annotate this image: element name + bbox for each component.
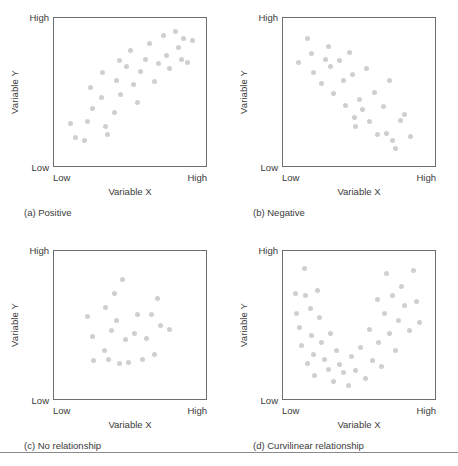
scatter-point — [399, 284, 404, 289]
scatter-point — [176, 45, 181, 50]
panel-d-caption: (d) Curvilinear relationship — [253, 440, 364, 451]
panel-d-curvilinear: High Low Variable Y Low High Variable X … — [229, 233, 458, 466]
scatter-point — [349, 354, 354, 359]
scatter-point — [370, 358, 375, 363]
scatter-point — [323, 57, 328, 62]
scatter-point — [411, 268, 416, 273]
scatter-point — [376, 340, 381, 345]
panel-c-no-relationship: High Low Variable Y Low High Variable X … — [0, 233, 229, 466]
scatter-point — [140, 357, 145, 362]
scatter-point — [390, 138, 395, 143]
scatter-point — [112, 110, 117, 115]
scatter-point — [103, 124, 108, 129]
scatter-point — [68, 121, 73, 126]
scatter-point — [311, 70, 316, 75]
scatter-point — [367, 119, 372, 124]
scatter-point — [132, 331, 137, 336]
plot-area-b — [282, 17, 436, 167]
plot-area-d — [282, 250, 436, 400]
scatter-point — [305, 36, 310, 41]
y-axis-high-label: High — [29, 12, 49, 23]
scatter-point — [105, 132, 110, 137]
x-axis-high-label: High — [187, 405, 207, 416]
scatter-point — [109, 328, 114, 333]
scatter-point — [372, 90, 377, 95]
scatter-point — [158, 323, 163, 328]
scatter-point — [308, 306, 313, 311]
scatter-point — [106, 357, 111, 362]
scatter-point — [341, 78, 346, 83]
scatter-point — [358, 345, 363, 350]
scatter-point — [402, 303, 407, 308]
scatter-point — [85, 119, 90, 124]
scatter-point — [414, 299, 419, 304]
scatter-point — [190, 38, 195, 43]
figure-bottom-divider — [0, 452, 458, 453]
scatter-point — [143, 57, 148, 62]
x-axis-high-label: High — [416, 405, 436, 416]
scatter-point — [112, 291, 117, 296]
scatter-point — [144, 336, 149, 341]
scatter-point — [407, 328, 412, 333]
panel-b-negative: High Low Variable Y Low High Variable X … — [229, 0, 458, 233]
scatter-point — [82, 138, 87, 143]
scatter-point — [114, 318, 119, 323]
scatter-point — [328, 331, 333, 336]
y-axis-title: Variable Y — [9, 303, 20, 347]
scatter-point — [161, 33, 166, 38]
y-axis-high-label: High — [258, 12, 278, 23]
scatter-point — [293, 291, 298, 296]
plot-area-c — [53, 250, 207, 400]
scatter-point — [350, 72, 355, 77]
scatter-point — [138, 69, 143, 74]
x-axis-title: Variable X — [108, 419, 151, 430]
scatter-point — [393, 146, 398, 151]
panel-a-caption: (a) Positive — [24, 207, 72, 218]
scatter-point — [326, 367, 331, 372]
scatter-point — [337, 362, 342, 367]
scatter-point — [319, 340, 324, 345]
scatter-point — [164, 53, 169, 58]
scatter-point — [100, 70, 105, 75]
x-axis-low-label: Low — [53, 405, 70, 416]
scatter-point — [326, 44, 331, 49]
scatter-point — [319, 81, 324, 86]
x-axis-low-label: Low — [282, 405, 299, 416]
scatter-point — [384, 131, 389, 136]
scatter-point — [103, 305, 108, 310]
scatter-point — [302, 266, 307, 271]
scatter-point — [147, 41, 152, 46]
scatter-point — [299, 343, 304, 348]
scatter-point — [387, 78, 392, 83]
scatter-point — [173, 29, 178, 34]
scatter-point — [311, 352, 316, 357]
y-axis-low-label: Low — [261, 162, 278, 173]
y-axis-high-label: High — [258, 245, 278, 256]
scatter-point — [312, 373, 317, 378]
scatter-point — [152, 79, 157, 84]
scatter-point — [402, 112, 407, 117]
x-axis-low-label: Low — [282, 172, 299, 183]
scatter-point — [117, 361, 122, 366]
x-axis-title: Variable X — [108, 186, 151, 197]
scatter-point — [363, 376, 368, 381]
scatter-point — [297, 325, 302, 330]
scatter-point — [120, 277, 125, 282]
scatter-point — [85, 314, 90, 319]
scatter-point — [357, 97, 362, 102]
y-axis-high-label: High — [29, 245, 49, 256]
scatter-point — [309, 333, 314, 338]
scatter-point — [118, 92, 123, 97]
panel-a-positive: High Low Variable Y Low High Variable X … — [0, 0, 229, 233]
scatter-point — [294, 311, 299, 316]
scatter-point — [296, 60, 301, 65]
scatter-point — [367, 327, 372, 332]
scatter-point — [360, 107, 365, 112]
scatter-point — [322, 357, 327, 362]
scatter-point — [346, 383, 351, 388]
scatter-point — [331, 91, 336, 96]
scatter-point — [387, 331, 392, 336]
y-axis-title: Variable Y — [238, 303, 249, 347]
plot-area-a — [53, 17, 207, 167]
scatter-point — [379, 364, 384, 369]
